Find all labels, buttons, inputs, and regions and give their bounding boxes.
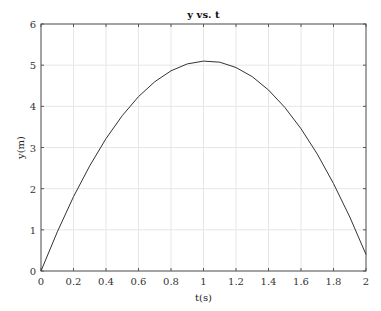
y-tick-label: 6 (30, 19, 36, 30)
x-tick-label: 1.6 (293, 276, 309, 287)
x-tick-label: 1.4 (261, 276, 277, 287)
x-tick-label: 2 (363, 276, 369, 287)
y-tick-label: 0 (30, 266, 36, 277)
x-tick-label: 0.2 (66, 276, 82, 287)
y-tick-label: 5 (30, 60, 36, 71)
chart-figure: 00.20.40.60.811.21.41.61.82 0123456 y vs… (0, 0, 381, 311)
y-axis-label: y(m) (15, 136, 26, 160)
y-tick-labels: 0123456 (30, 19, 36, 277)
x-axis-label: t(s) (195, 292, 212, 303)
x-tick-labels: 00.20.40.60.811.21.41.61.82 (38, 276, 369, 287)
x-tick-label: 0 (38, 276, 44, 287)
x-tick-label: 1.2 (228, 276, 244, 287)
chart-title: y vs. t (186, 9, 220, 20)
y-tick-label: 4 (30, 101, 36, 112)
x-tick-label: 1.8 (326, 276, 342, 287)
x-tick-label: 1 (200, 276, 206, 287)
x-tick-label: 0.8 (163, 276, 179, 287)
y-tick-label: 1 (30, 225, 36, 236)
x-tick-label: 0.4 (98, 276, 114, 287)
x-tick-label: 0.6 (131, 276, 147, 287)
y-tick-label: 3 (30, 143, 36, 154)
y-tick-label: 2 (30, 184, 36, 195)
